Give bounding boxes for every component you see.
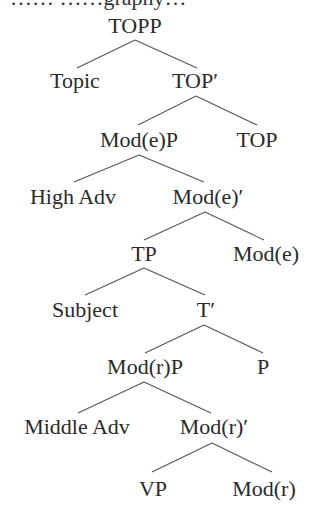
- tree-node-modr_bar: Mod(r)′: [180, 414, 248, 439]
- tree-node-topp: TOPP: [108, 13, 161, 38]
- tree-edge-top_bar-top: [196, 96, 257, 125]
- tree-node-t_bar: T′: [197, 297, 215, 322]
- tree-edge-mode_bar-tp: [144, 212, 205, 240]
- tree-edge-t_bar-p: [204, 325, 263, 353]
- tree-edge-modr_bar-vp: [152, 443, 212, 472]
- tree-edge-tp-subject: [85, 268, 144, 295]
- syntax-tree-diagram: …… ……graphy… TOPPTopicTOP′Mod(e)PTOPHigh…: [0, 0, 316, 515]
- tree-node-modep: Mod(e)P: [100, 127, 178, 152]
- tree-node-mode_bar: Mod(e)′: [173, 184, 244, 209]
- tree-edge-modrp-middle_adv: [78, 382, 144, 413]
- tree-edge-tp-t_bar: [144, 268, 205, 295]
- tree-edge-topp-topic: [77, 40, 135, 68]
- tree-node-high_adv: High Adv: [30, 184, 116, 209]
- tree-node-topic: Topic: [50, 68, 100, 93]
- tree-edge-topp-top_bar: [135, 40, 197, 68]
- tree-node-top_bar: TOP′: [172, 68, 218, 93]
- partial-caption-text: …… ……graphy…: [10, 0, 187, 10]
- tree-edge-modep-mode_bar: [139, 155, 204, 182]
- tree-node-middle_adv: Middle Adv: [24, 414, 130, 439]
- tree-edge-mode_bar-mode: [205, 212, 264, 240]
- tree-edge-modrp-modr_bar: [144, 382, 211, 413]
- tree-node-vp: VP: [139, 476, 167, 501]
- tree-edge-modr_bar-modr: [212, 443, 272, 472]
- tree-node-tp: TP: [131, 241, 157, 266]
- tree-node-modr: Mod(r): [232, 476, 296, 501]
- tree-nodes: TOPPTopicTOP′Mod(e)PTOPHigh AdvMod(e)′TP…: [24, 13, 299, 501]
- tree-edge-modep-high_adv: [74, 155, 139, 182]
- tree-edge-t_bar-modrp: [145, 325, 204, 353]
- tree-node-modrp: Mod(r)P: [107, 354, 183, 379]
- tree-node-mode: Mod(e): [233, 241, 299, 266]
- tree-node-top: TOP: [236, 127, 277, 152]
- tree-edge-top_bar-modep: [138, 96, 196, 125]
- tree-node-p: P: [257, 354, 269, 379]
- tree-node-subject: Subject: [52, 297, 118, 322]
